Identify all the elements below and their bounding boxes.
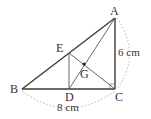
measure-bc: 8 cm bbox=[57, 101, 79, 113]
label-g: G bbox=[80, 67, 89, 81]
segment-ec bbox=[69, 53, 115, 89]
label-c: C bbox=[115, 90, 123, 104]
measure-ac: 6 cm bbox=[118, 46, 140, 58]
point-g-dot bbox=[82, 62, 85, 65]
label-b: B bbox=[10, 82, 18, 96]
triangle-diagram: A B C D E G 6 cm 8 cm bbox=[0, 0, 151, 119]
label-a: A bbox=[110, 4, 119, 18]
segment-da bbox=[69, 18, 115, 89]
label-e: E bbox=[56, 41, 63, 55]
